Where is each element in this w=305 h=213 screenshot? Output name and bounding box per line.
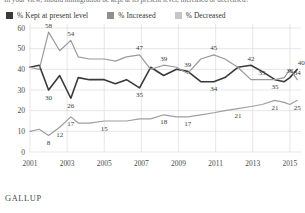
svg-text:17: 17 (67, 120, 75, 128)
svg-text:25: 25 (294, 104, 302, 112)
svg-text:39: 39 (160, 55, 168, 63)
svg-text:0: 0 (21, 148, 25, 157)
legend-swatch-decreased (175, 12, 182, 19)
svg-text:17: 17 (184, 120, 192, 128)
svg-text:2001: 2001 (23, 159, 38, 168)
svg-text:2011: 2011 (208, 159, 223, 168)
svg-text:15: 15 (101, 125, 109, 133)
chart-legend: % Kept at present level % Increased % De… (6, 10, 245, 21)
gallup-brand: GALLUP (5, 194, 42, 203)
svg-text:45: 45 (210, 44, 218, 52)
legend-label-decreased: % Decreased (186, 11, 226, 20)
svg-text:35: 35 (259, 69, 267, 77)
svg-text:26: 26 (67, 102, 75, 110)
svg-text:30: 30 (17, 86, 25, 95)
svg-text:2003: 2003 (60, 159, 75, 168)
legend-swatch-kept (6, 12, 13, 19)
svg-text:2007: 2007 (134, 159, 149, 168)
svg-text:58: 58 (45, 22, 53, 30)
legend-item-decreased[interactable]: % Decreased (175, 11, 226, 20)
svg-text:2015: 2015 (282, 159, 297, 168)
y-axis-labels: 0102030405060 (17, 24, 25, 157)
svg-text:20: 20 (17, 106, 25, 115)
line-chart-svg: 0102030405060 30263539344235364058544739… (0, 22, 305, 180)
svg-text:40: 40 (298, 59, 305, 67)
legend-item-kept[interactable]: % Kept at present level (6, 11, 88, 20)
svg-text:36: 36 (286, 67, 294, 75)
svg-text:2005: 2005 (97, 159, 112, 168)
svg-text:39: 39 (184, 61, 192, 69)
svg-text:12: 12 (56, 131, 64, 139)
svg-text:34: 34 (294, 69, 302, 77)
svg-text:18: 18 (160, 118, 168, 126)
svg-text:21: 21 (272, 104, 280, 112)
legend-item-increased[interactable]: % Increased (107, 11, 155, 20)
svg-text:21: 21 (234, 112, 242, 120)
svg-text:34: 34 (210, 85, 218, 93)
legend-label-increased: % Increased (118, 11, 155, 20)
svg-text:35: 35 (272, 83, 280, 91)
svg-text:54: 54 (67, 30, 75, 38)
question-text: In your view, should immigration be kept… (4, 0, 301, 5)
legend-swatch-increased (107, 12, 114, 19)
svg-text:2009: 2009 (171, 159, 186, 168)
chart-figure: In your view, should immigration be kept… (0, 0, 305, 213)
x-axis-labels: 20012003200520072009201120132015 (23, 159, 298, 168)
plot-area: 0102030405060 30263539344235364058544739… (0, 22, 305, 180)
gridlines (30, 28, 301, 152)
data-point-labels: 3026353934423536405854473945353481217151… (45, 22, 305, 147)
svg-text:47: 47 (136, 44, 144, 52)
svg-text:35: 35 (136, 91, 144, 99)
vertical-gridlines (30, 24, 290, 152)
svg-text:8: 8 (47, 139, 51, 147)
svg-text:30: 30 (45, 94, 53, 102)
svg-text:10: 10 (17, 127, 25, 136)
legend-label-kept: % Kept at present level (17, 11, 88, 20)
svg-text:40: 40 (17, 65, 25, 74)
svg-text:42: 42 (247, 55, 255, 63)
svg-text:60: 60 (17, 24, 25, 33)
svg-text:2013: 2013 (245, 159, 260, 168)
svg-text:50: 50 (17, 44, 25, 53)
